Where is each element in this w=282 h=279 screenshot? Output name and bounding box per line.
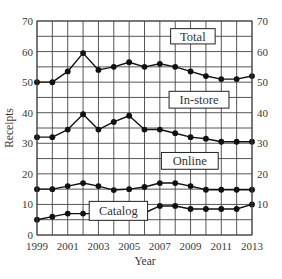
y-tick-label-left: 60 xyxy=(22,46,34,58)
y-tick-label-left: 10 xyxy=(22,198,34,210)
label-text: Total xyxy=(180,30,206,44)
data-point-marker xyxy=(142,127,148,133)
data-point-marker xyxy=(172,180,178,186)
data-point-marker xyxy=(234,76,240,82)
data-point-marker xyxy=(111,119,117,125)
y-tick-label-right: 70 xyxy=(257,15,269,27)
y-tick-label-left: 20 xyxy=(22,168,34,180)
y-tick-label-right: 20 xyxy=(257,168,269,180)
data-point-marker xyxy=(49,134,55,140)
data-point-marker xyxy=(188,134,194,140)
data-point-marker xyxy=(96,127,102,133)
data-point-marker xyxy=(111,64,117,70)
series-label-total: Total xyxy=(171,29,216,44)
series-label-in-store: In-store xyxy=(169,91,229,108)
data-point-marker xyxy=(49,214,55,220)
data-point-marker xyxy=(172,203,178,209)
x-tick-label: 2009 xyxy=(180,240,203,252)
data-point-marker xyxy=(111,187,117,193)
data-point-marker xyxy=(203,187,209,193)
data-point-marker xyxy=(203,73,209,79)
data-point-marker xyxy=(234,206,240,212)
y-tick-label-right: 40 xyxy=(257,107,269,119)
x-tick-label: 1999 xyxy=(26,240,49,252)
y-tick-label-left: 30 xyxy=(22,137,34,149)
data-point-marker xyxy=(188,69,194,75)
label-text: Online xyxy=(173,154,207,168)
y-tick-label-left: 70 xyxy=(22,15,34,27)
chart-canvas: TotalIn-storeOnlineCatalog 0102030405060… xyxy=(0,0,282,279)
y-tick-label-right: 60 xyxy=(257,46,269,58)
data-point-marker xyxy=(188,183,194,189)
data-point-marker xyxy=(142,184,148,190)
data-point-marker xyxy=(80,111,86,117)
y-tick-label-right: 30 xyxy=(257,137,269,149)
data-point-marker xyxy=(142,64,148,70)
y-tick-label-right: 10 xyxy=(257,198,269,210)
data-point-marker xyxy=(80,211,86,217)
data-point-marker xyxy=(157,180,163,186)
data-point-marker xyxy=(65,211,71,217)
data-point-marker xyxy=(65,69,71,75)
data-point-marker xyxy=(157,127,163,133)
data-point-marker xyxy=(49,186,55,192)
data-point-marker xyxy=(172,64,178,70)
data-point-marker xyxy=(234,187,240,193)
data-point-marker xyxy=(65,127,71,133)
x-tick-label: 2007 xyxy=(149,240,172,252)
x-tick-label: 2011 xyxy=(210,240,232,252)
x-axis-title: Year xyxy=(134,255,155,267)
line-chart: TotalIn-storeOnlineCatalog 0102030405060… xyxy=(0,0,282,279)
label-text: In-store xyxy=(180,93,219,107)
x-tick-label: 2003 xyxy=(87,240,110,252)
data-point-marker xyxy=(80,180,86,186)
data-point-marker xyxy=(157,203,163,209)
data-point-marker xyxy=(203,136,209,142)
data-point-marker xyxy=(172,130,178,136)
data-point-marker xyxy=(218,187,224,193)
data-point-marker xyxy=(188,206,194,212)
data-point-marker xyxy=(96,183,102,189)
series-label-online: Online xyxy=(161,152,218,169)
label-text: Catalog xyxy=(99,204,139,218)
x-tick-label: 2001 xyxy=(57,240,79,252)
data-point-marker xyxy=(218,206,224,212)
data-point-marker xyxy=(80,50,86,56)
data-point-marker xyxy=(126,59,132,65)
x-tick-label: 2013 xyxy=(241,240,264,252)
y-tick-label-left: 40 xyxy=(22,107,34,119)
y-axis-title: Receipts xyxy=(3,108,16,148)
data-point-marker xyxy=(157,61,163,67)
data-point-marker xyxy=(218,76,224,82)
data-point-marker xyxy=(96,67,102,73)
data-point-marker xyxy=(126,113,132,119)
data-point-marker xyxy=(49,79,55,85)
y-tick-label-right: 50 xyxy=(257,76,269,88)
data-point-marker xyxy=(203,206,209,212)
data-point-marker xyxy=(126,186,132,192)
series-label-catalog: Catalog xyxy=(89,201,147,220)
y-tick-label-left: 50 xyxy=(22,76,34,88)
data-point-marker xyxy=(218,139,224,145)
data-point-marker xyxy=(234,139,240,145)
data-point-marker xyxy=(65,183,71,189)
x-tick-label: 2005 xyxy=(118,240,141,252)
